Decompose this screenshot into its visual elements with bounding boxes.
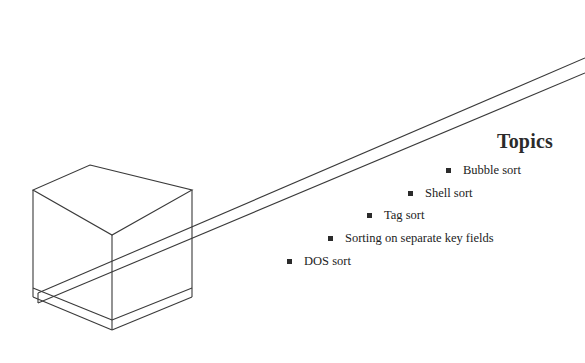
filled-square-bullet-icon [328,236,333,241]
filled-square-bullet-icon [446,168,451,173]
list-item: DOS sort [287,254,351,268]
list-item: Bubble sort [446,163,521,177]
topic-label: Shell sort [425,186,473,200]
topic-label: Sorting on separate key fields [345,231,494,245]
filled-square-bullet-icon [287,259,292,264]
filled-square-bullet-icon [408,191,413,196]
list-item: Sorting on separate key fields [328,231,494,245]
topic-label: DOS sort [304,254,351,268]
list-item: Tag sort [367,208,424,222]
list-item: Shell sort [408,186,473,200]
topic-label: Bubble sort [463,163,521,177]
page-title: Topics [470,130,580,152]
topic-label: Tag sort [384,208,424,222]
isometric-cube-on-ramp-graphic [0,0,585,363]
slide-canvas: Topics Bubble sort Shell sort Tag sort S… [0,0,585,363]
isometric-cube [33,165,192,320]
filled-square-bullet-icon [367,213,372,218]
